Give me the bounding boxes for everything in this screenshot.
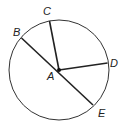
label-D: D xyxy=(110,57,118,69)
center-point-A xyxy=(57,68,61,72)
segment-BE xyxy=(22,38,94,105)
label-B: B xyxy=(13,26,20,38)
label-E: E xyxy=(98,107,106,119)
label-C: C xyxy=(43,5,51,17)
segment-AC xyxy=(50,21,60,70)
label-A: A xyxy=(46,70,54,82)
circle-diagram: A B C D E xyxy=(0,0,125,127)
segment-AD xyxy=(59,63,108,70)
